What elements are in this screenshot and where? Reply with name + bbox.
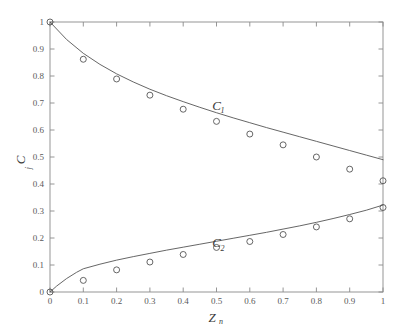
data-point-C1-2: [114, 76, 120, 82]
data-point-C2-7: [280, 231, 286, 237]
x-axis-ticks: [50, 22, 383, 292]
chart-canvas: 00.10.20.30.40.50.60.70.80.91 00.10.20.3…: [0, 0, 402, 329]
data-point-C2-2: [114, 267, 120, 273]
data-point-C1-9: [347, 166, 353, 172]
data-point-C1-5: [214, 118, 220, 124]
x-axis-tick-labels: 00.10.20.30.40.50.60.70.80.91: [48, 296, 386, 306]
x-tick-label-7: 0.7: [277, 296, 289, 306]
x-tick-label-8: 0.8: [311, 296, 323, 306]
data-point-C1-4: [180, 106, 186, 112]
x-tick-label-6: 0.6: [244, 296, 256, 306]
data-point-C2-8: [313, 224, 319, 230]
x-tick-label-5: 0.5: [211, 296, 223, 306]
x-tick-label-4: 0.4: [178, 296, 190, 306]
y-axis-title: C j: [13, 155, 33, 170]
data-point-C2-9: [347, 216, 353, 222]
data-point-C1-6: [247, 131, 253, 137]
curve-annotations: C1C2: [212, 98, 224, 253]
y-axis-tick-labels: 00.10.20.30.40.50.60.70.80.91: [33, 17, 45, 297]
x-tick-label-3: 0.3: [144, 296, 156, 306]
curve-label-subscript-2: 2: [221, 244, 225, 253]
y-tick-label-4: 0.4: [33, 179, 45, 189]
series-line-C1: [50, 22, 383, 160]
y-tick-label-9: 0.9: [33, 44, 45, 54]
data-point-C1-3: [147, 92, 153, 98]
figure-container: 00.10.20.30.40.50.60.70.80.91 00.10.20.3…: [0, 0, 402, 329]
curve-label-subscript-1: 1: [221, 106, 225, 115]
data-series-markers: [47, 19, 386, 295]
plot-frame: [50, 22, 383, 292]
y-tick-label-6: 0.6: [33, 125, 45, 135]
data-point-C2-3: [147, 259, 153, 265]
y-tick-label-3: 0.3: [33, 206, 45, 216]
data-point-C1-8: [313, 154, 319, 160]
data-point-C2-6: [247, 239, 253, 245]
data-point-C2-4: [180, 251, 186, 257]
x-axis-title: Z n: [208, 310, 223, 326]
y-axis-title-base: C: [13, 155, 28, 164]
x-tick-label-1: 0.1: [78, 296, 89, 306]
x-axis-title-base: Z: [208, 310, 216, 325]
data-point-C2-1: [80, 277, 86, 283]
y-axis-title-subscript: j: [24, 166, 33, 170]
y-tick-label-5: 0.5: [33, 152, 45, 162]
y-tick-label-10: 1: [40, 17, 45, 27]
y-tick-label-8: 0.8: [33, 71, 45, 81]
x-tick-label-10: 1: [381, 296, 386, 306]
x-tick-label-2: 0.2: [111, 296, 122, 306]
data-point-C1-7: [280, 142, 286, 148]
x-tick-label-0: 0: [48, 296, 53, 306]
y-tick-label-7: 0.7: [33, 98, 45, 108]
data-point-C1-1: [80, 56, 86, 62]
data-series-lines: [50, 22, 383, 292]
x-axis-title-subscript: n: [219, 317, 223, 326]
plot-axes-box: [50, 22, 383, 292]
x-tick-label-9: 0.9: [344, 296, 356, 306]
y-tick-label-1: 0.1: [33, 260, 44, 270]
y-axis-ticks: [50, 22, 383, 292]
y-tick-label-0: 0: [40, 287, 45, 297]
y-tick-label-2: 0.2: [33, 233, 44, 243]
